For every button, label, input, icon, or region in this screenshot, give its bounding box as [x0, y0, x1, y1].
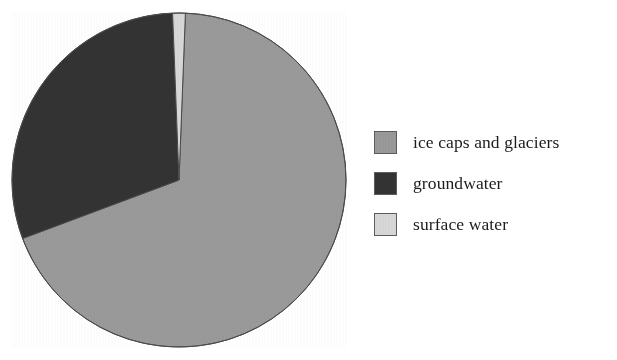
legend-swatch-texture — [375, 214, 396, 235]
legend-item-groundwater[interactable]: groundwater — [374, 163, 612, 204]
pie-chart-plot-area — [11, 12, 347, 348]
legend-label-groundwater: groundwater — [413, 175, 503, 193]
legend-label-surface-water: surface water — [413, 216, 508, 234]
pie-chart-figure: ice caps and glaciers groundwater surfac… — [0, 0, 617, 360]
legend-item-ice-caps-and-glaciers[interactable]: ice caps and glaciers — [374, 122, 612, 163]
legend-label-ice-caps-and-glaciers: ice caps and glaciers — [413, 134, 559, 152]
pie-slice-group — [12, 13, 346, 347]
legend-swatch-texture — [375, 173, 396, 194]
legend-swatch-surface-water — [374, 213, 397, 236]
legend-swatch-texture — [375, 132, 396, 153]
legend-swatch-ice-caps-and-glaciers — [374, 131, 397, 154]
chart-legend: ice caps and glaciers groundwater surfac… — [374, 122, 612, 245]
legend-item-surface-water[interactable]: surface water — [374, 204, 612, 245]
legend-swatch-groundwater — [374, 172, 397, 195]
pie-chart-svg — [11, 12, 347, 348]
